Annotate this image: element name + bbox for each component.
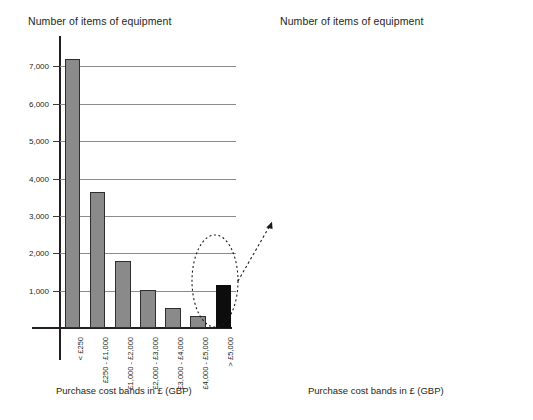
left-y-axis-line [59,36,61,360]
x-tick-label-7: > £5,000 [226,337,235,366]
x-tick-label-6: £4,000 - £5,000 [201,337,210,390]
y-tick-label-7000: 7,000 [29,62,49,71]
bar-7 [216,285,232,328]
y-tick-2000 [53,253,59,254]
left-chart-panel: Number of items of equipment 1,0002,0003… [0,0,266,420]
x-tick-label-5: £3,000 - £4,000 [176,337,185,390]
y-tick-label-2000: 2,000 [29,249,49,258]
y-tick-label-3000: 3,000 [29,211,49,220]
right-chart-title: Number of items of equipment [280,15,423,27]
x-tick-label-2: £250 - £1,000 [101,337,110,383]
bar-1 [65,59,81,328]
y-tick-6000 [53,104,59,105]
left-x-axis-caption: Purchase cost bands in £ (GBP) [56,385,192,396]
gridline-5000 [60,141,236,142]
gridline-4000 [60,179,236,180]
y-tick-1000 [53,291,59,292]
bar-6 [190,316,206,328]
bar-4 [140,290,156,328]
y-tick-label-1000: 1,000 [29,286,49,295]
bar-2 [90,192,106,328]
gridline-6000 [60,104,236,105]
x-tick-label-3: £1,000 - £2,000 [126,337,135,390]
bar-3 [115,261,131,328]
y-tick-4000 [53,179,59,180]
bar-5 [165,308,181,328]
y-tick-label-5000: 5,000 [29,137,49,146]
gridline-3000 [60,216,236,217]
x-tick-label-4: £2,000 - £3,000 [151,337,160,390]
x-tick-label-1: < £250 [76,337,85,360]
y-tick-3000 [53,216,59,217]
gridline-2000 [60,253,236,254]
right-chart-panel: Number of items of equipment 10020030040… [266,0,533,420]
y-tick-7000 [53,66,59,67]
y-tick-5000 [53,141,59,142]
y-tick-label-4000: 4,000 [29,174,49,183]
left-chart-title: Number of items of equipment [28,15,171,27]
gridline-7000 [60,66,236,67]
right-x-axis-caption: Purchase cost bands in £ (GBP) [308,385,444,396]
left-chart-plot-area: 1,0002,0003,0004,0005,0006,0007,000< £25… [60,44,236,328]
y-tick-label-6000: 6,000 [29,99,49,108]
